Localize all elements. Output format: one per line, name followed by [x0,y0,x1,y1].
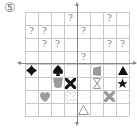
shape-cell [64,90,77,103]
shape-cell [51,77,64,90]
question-mark: ? [81,53,86,62]
x-axis-arrow-icon [133,61,137,65]
grid-line [129,12,130,116]
question-mark: ? [81,27,86,36]
shape-cell [116,64,129,77]
shape-cell [103,90,116,103]
question-mark: ? [107,40,112,49]
question-mark: ? [55,40,60,49]
y-axis-arrow-down-icon [75,122,79,126]
shape-cell [38,90,51,103]
shape-cell [51,64,64,77]
y-axis [77,4,78,124]
dotted-x-icon [65,91,76,102]
y-axis-arrow-icon [75,2,79,6]
shape-cell [77,103,90,116]
gray-cup-icon [53,78,63,89]
question-cell: ? [51,38,64,51]
question-mark: ? [42,27,47,36]
shape-cell [90,64,103,77]
question-cell: ? [116,38,129,51]
question-cell: ? [38,38,51,51]
shape-cell [64,77,77,90]
question-cell: ? [64,12,77,25]
black-x-icon [65,78,76,89]
gray-heart-icon [40,92,50,102]
question-cell: ? [38,25,51,38]
black-star-icon [117,78,128,89]
gray-flag-icon [92,66,102,76]
outline-triangle-icon [78,105,89,115]
question-mark: ? [107,14,112,23]
question-mark: ? [29,27,34,36]
question-mark: ? [68,14,73,23]
x-axis-arrow-left-icon [17,61,21,65]
hourglass-icon [93,78,101,89]
black-diamond-icon [26,65,37,76]
black-spade-icon [53,65,63,76]
question-cell: ? [25,25,38,38]
shape-cell [25,64,38,77]
problem-number-label: ⑤ [4,1,18,15]
gray-x-icon [104,91,115,102]
question-mark: ? [120,40,125,49]
shape-cell [90,77,103,90]
question-cell: ? [103,12,116,25]
question-cell: ? [103,38,116,51]
question-mark: ? [42,40,47,49]
question-cell: ? [77,25,90,38]
shape-cell [116,77,129,90]
black-triangle-icon [118,66,128,75]
